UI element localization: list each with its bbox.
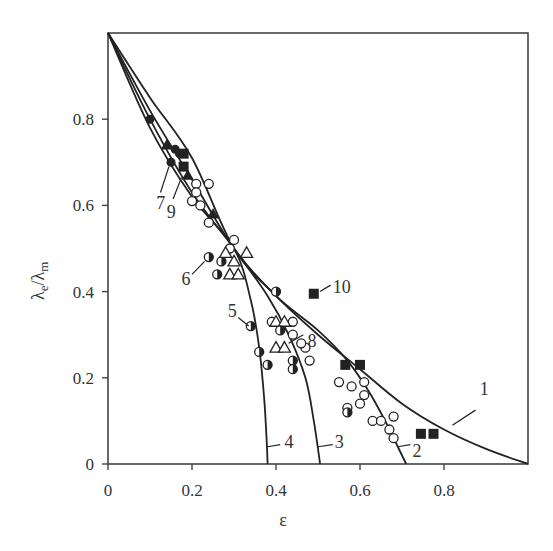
leader-line bbox=[238, 317, 249, 326]
label-10: 10 bbox=[333, 277, 351, 297]
leader-line bbox=[161, 167, 169, 193]
open-circle-marker bbox=[377, 416, 386, 425]
label-8: 8 bbox=[308, 331, 317, 351]
label-5: 5 bbox=[228, 301, 237, 321]
label-7: 7 bbox=[156, 193, 165, 213]
open-circle-marker bbox=[356, 399, 365, 408]
open-circle-marker bbox=[305, 356, 314, 365]
model-curves bbox=[108, 33, 528, 464]
open-circle-marker bbox=[196, 201, 205, 210]
half-filled-circle-marker bbox=[343, 408, 352, 417]
open-triangle-marker bbox=[241, 247, 253, 258]
open-circle-marker bbox=[204, 218, 213, 227]
leader-line bbox=[173, 177, 181, 199]
open-circle-marker bbox=[297, 339, 306, 348]
filled-circle-marker bbox=[146, 115, 155, 124]
open-circle-marker bbox=[288, 330, 297, 339]
half-filled-circle-marker bbox=[288, 365, 297, 374]
open-circle-marker bbox=[204, 179, 213, 188]
half-filled-circle-marker bbox=[288, 356, 297, 365]
open-circle-marker bbox=[385, 425, 394, 434]
leader-line bbox=[398, 445, 411, 447]
leader-line bbox=[318, 445, 333, 447]
y-tick-label: 0.2 bbox=[73, 369, 94, 388]
x-tick-label: 0 bbox=[104, 481, 113, 500]
half-filled-circle-marker bbox=[204, 253, 213, 262]
curve-1 bbox=[108, 33, 528, 464]
x-tick-label: 0.4 bbox=[265, 481, 287, 500]
leader-line bbox=[268, 445, 281, 447]
filled-square-marker bbox=[340, 360, 350, 370]
leader-line bbox=[452, 410, 475, 425]
x-tick-label: 0.2 bbox=[181, 481, 202, 500]
label-9: 9 bbox=[167, 202, 176, 222]
filled-square-marker bbox=[179, 149, 189, 159]
leader-line bbox=[320, 285, 331, 291]
x-tick-label: 0.6 bbox=[349, 481, 370, 500]
open-circle-marker bbox=[192, 179, 201, 188]
filled-square-marker bbox=[416, 429, 426, 439]
y-tick-label: 0.4 bbox=[73, 283, 95, 302]
label-2: 2 bbox=[413, 441, 422, 461]
curve-3 bbox=[108, 33, 320, 464]
open-circle-marker bbox=[188, 197, 197, 206]
open-circle-marker bbox=[368, 416, 377, 425]
label-3: 3 bbox=[335, 432, 344, 452]
curve-labels: 12345678910 bbox=[156, 167, 488, 461]
x-axis-title: ε bbox=[279, 510, 287, 530]
y-axis-title: λe/λm bbox=[28, 262, 51, 300]
filled-square-marker bbox=[179, 162, 189, 172]
open-circle-marker bbox=[360, 391, 369, 400]
half-filled-circle-marker bbox=[246, 322, 255, 331]
open-circle-marker bbox=[347, 382, 356, 391]
open-circle-marker bbox=[192, 188, 201, 197]
half-filled-circle-marker bbox=[255, 347, 264, 356]
open-circle-marker bbox=[389, 434, 398, 443]
half-filled-circle-marker bbox=[272, 287, 281, 296]
filled-circle-marker bbox=[167, 158, 176, 167]
curve-4 bbox=[108, 33, 268, 464]
plot-border bbox=[108, 33, 528, 464]
x-tick-label: 0.8 bbox=[433, 481, 454, 500]
open-circle-marker bbox=[335, 378, 344, 387]
open-circle-marker bbox=[389, 412, 398, 421]
open-circle-marker bbox=[230, 235, 239, 244]
y-tick-label: 0.8 bbox=[73, 110, 94, 129]
half-filled-circle-marker bbox=[263, 360, 272, 369]
y-tick-label: 0 bbox=[86, 455, 95, 474]
label-4: 4 bbox=[284, 432, 293, 452]
label-6: 6 bbox=[182, 269, 191, 289]
filled-square-marker bbox=[429, 429, 439, 439]
half-filled-circle-marker bbox=[217, 257, 226, 266]
leader-line bbox=[192, 261, 205, 274]
filled-square-marker bbox=[309, 289, 319, 299]
label-1: 1 bbox=[480, 379, 489, 399]
y-tick-label: 0.6 bbox=[73, 196, 94, 215]
filled-square-marker bbox=[355, 360, 365, 370]
half-filled-circle-marker bbox=[213, 270, 222, 279]
half-filled-circle-marker bbox=[276, 326, 285, 335]
plot-frame bbox=[108, 33, 528, 464]
open-circle-marker bbox=[360, 378, 369, 387]
chart-canvas: 12345678910 00.20.40.60.800.20.40.60.8ελ… bbox=[0, 0, 553, 551]
